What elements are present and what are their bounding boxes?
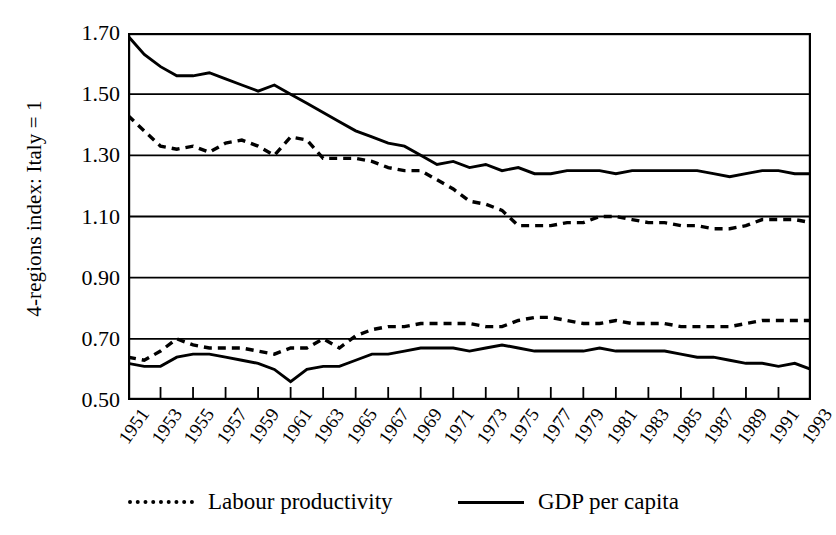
chart-legend: Labour productivity GDP per capita bbox=[128, 487, 811, 527]
x-tick-label-1993: 1993 bbox=[798, 405, 835, 447]
x-tick-label-1957: 1957 bbox=[213, 405, 250, 447]
x-tick-label-1983: 1983 bbox=[635, 405, 672, 447]
legend-label-gdp-per-capita: GDP per capita bbox=[538, 489, 679, 515]
x-tick-label-1953: 1953 bbox=[148, 405, 185, 447]
dashed-line-swatch-icon bbox=[128, 500, 194, 504]
solid-line-swatch-icon bbox=[458, 501, 524, 504]
x-tick-label-1969: 1969 bbox=[408, 405, 445, 447]
x-tick-label-1975: 1975 bbox=[505, 405, 542, 447]
x-tick-label-1971: 1971 bbox=[440, 405, 477, 447]
x-tick-label-1965: 1965 bbox=[343, 405, 380, 447]
legend-entry-gdp-per-capita: GDP per capita bbox=[458, 489, 679, 515]
x-tick-label-1979: 1979 bbox=[570, 405, 607, 447]
x-tick-label-1989: 1989 bbox=[733, 405, 770, 447]
x-tick-label-1981: 1981 bbox=[603, 405, 640, 447]
x-tick-label-1985: 1985 bbox=[668, 405, 705, 447]
x-tick-label-1977: 1977 bbox=[538, 405, 575, 447]
x-tick-label-1959: 1959 bbox=[245, 405, 282, 447]
x-tick-label-1991: 1991 bbox=[765, 405, 802, 447]
x-tick-label-1961: 1961 bbox=[278, 405, 315, 447]
x-tick-label-1987: 1987 bbox=[700, 405, 737, 447]
legend-entry-labour-productivity: Labour productivity bbox=[128, 489, 393, 515]
x-tick-label-1973: 1973 bbox=[473, 405, 510, 447]
x-tick-label-1963: 1963 bbox=[310, 405, 347, 447]
x-tick-label-1951: 1951 bbox=[115, 405, 152, 447]
legend-label-labour-productivity: Labour productivity bbox=[208, 489, 393, 515]
x-tick-label-1967: 1967 bbox=[375, 405, 412, 447]
x-tick-label-1955: 1955 bbox=[180, 405, 217, 447]
